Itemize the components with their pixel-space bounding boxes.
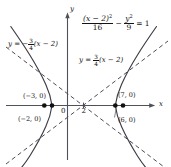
point-left-vertex [50, 103, 55, 108]
asymptote-label-negative-slope: y = −34(x − 2) [8, 38, 58, 51]
origin-label: 0 [61, 108, 65, 115]
center-tick-label: 2 [82, 108, 86, 115]
point-label-right-vertex: (6, 0) [118, 117, 135, 124]
asymptote-left-lhs: y = − [8, 40, 28, 48]
asymptote-right-rhs: (x − 2) [99, 56, 123, 64]
point-left-focus [42, 103, 47, 108]
asymptote-left-denominator: 4 [28, 45, 34, 51]
point-label-right-focus: (7, 0) [118, 92, 135, 99]
y-axis [65, 12, 69, 160]
asymptote-right-fraction: 34 [93, 54, 99, 67]
hyperbola-figure: y x 0 2 (x − 2)2 16 − y2 9 = 1 y = −34(x… [0, 0, 171, 167]
equation-equals-one: = 1 [136, 19, 149, 28]
y-axis-label: y [70, 6, 74, 13]
leader-line-right-vertex [115, 109, 117, 118]
equation-x-numerator-text: (x − 2) [83, 14, 109, 23]
equation-y-fraction: y2 9 [124, 15, 134, 32]
asymptote-right-lhs: y = [79, 56, 93, 64]
point-right-focus [121, 103, 126, 108]
point-right-vertex [113, 103, 118, 108]
equation-y-denominator: 9 [124, 24, 134, 32]
asymptote-left-rhs: (x − 2) [34, 40, 58, 48]
asymptote-left-fraction: 34 [28, 38, 34, 51]
asymptote-left-numerator: 3 [28, 38, 34, 45]
equation-y-exponent: 2 [129, 12, 132, 18]
equation-minus-sign: − [116, 19, 122, 28]
point-label-left-focus: (−3, 0) [23, 93, 46, 100]
asymptote-right-denominator: 4 [93, 61, 99, 67]
point-label-left-vertex: (−2, 0) [18, 116, 41, 123]
equation-x-exponent: 2 [109, 12, 112, 18]
hyperbola-equation: (x − 2)2 16 − y2 9 = 1 [82, 15, 150, 32]
asymptote-right-numerator: 3 [93, 54, 99, 61]
x-axis-label: x [159, 101, 163, 108]
asymptote-label-positive-slope: y = 34(x − 2) [79, 54, 123, 67]
equation-x-fraction: (x − 2)2 16 [82, 15, 113, 32]
equation-x-denominator: 16 [82, 24, 113, 32]
